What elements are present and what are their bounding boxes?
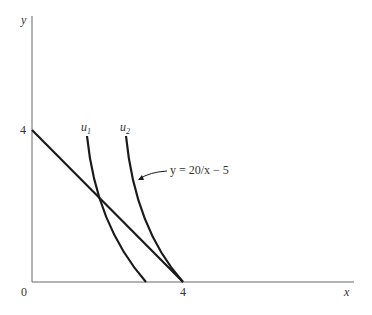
diagram-canvas: y x 0 4 4 u1 u2 y = 20/x − 5: [0, 0, 372, 315]
indifference-curve-u1: [87, 136, 146, 282]
budget-line: [32, 130, 183, 282]
annotation-equation: y = 20/x − 5: [170, 163, 229, 177]
arrowhead-icon: [138, 175, 144, 180]
u2-label: u2: [120, 120, 130, 136]
y-axis-label: y: [20, 13, 27, 27]
annotation-arrow: [139, 171, 167, 179]
origin-label: 0: [21, 285, 27, 299]
x-axis-label: x: [343, 285, 350, 299]
indifference-curve-u2: [126, 136, 183, 282]
u1-label: u1: [81, 120, 91, 136]
y-tick-4: 4: [20, 123, 26, 137]
x-tick-4: 4: [180, 285, 186, 299]
